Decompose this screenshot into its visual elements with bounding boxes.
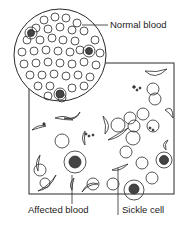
blood-diagram: [0, 0, 187, 227]
affected-blood-label: Affected blood: [28, 205, 89, 215]
normal-blood-label: Normal blood: [110, 20, 167, 30]
sickle-cell-label: Sickle cell: [122, 205, 164, 215]
